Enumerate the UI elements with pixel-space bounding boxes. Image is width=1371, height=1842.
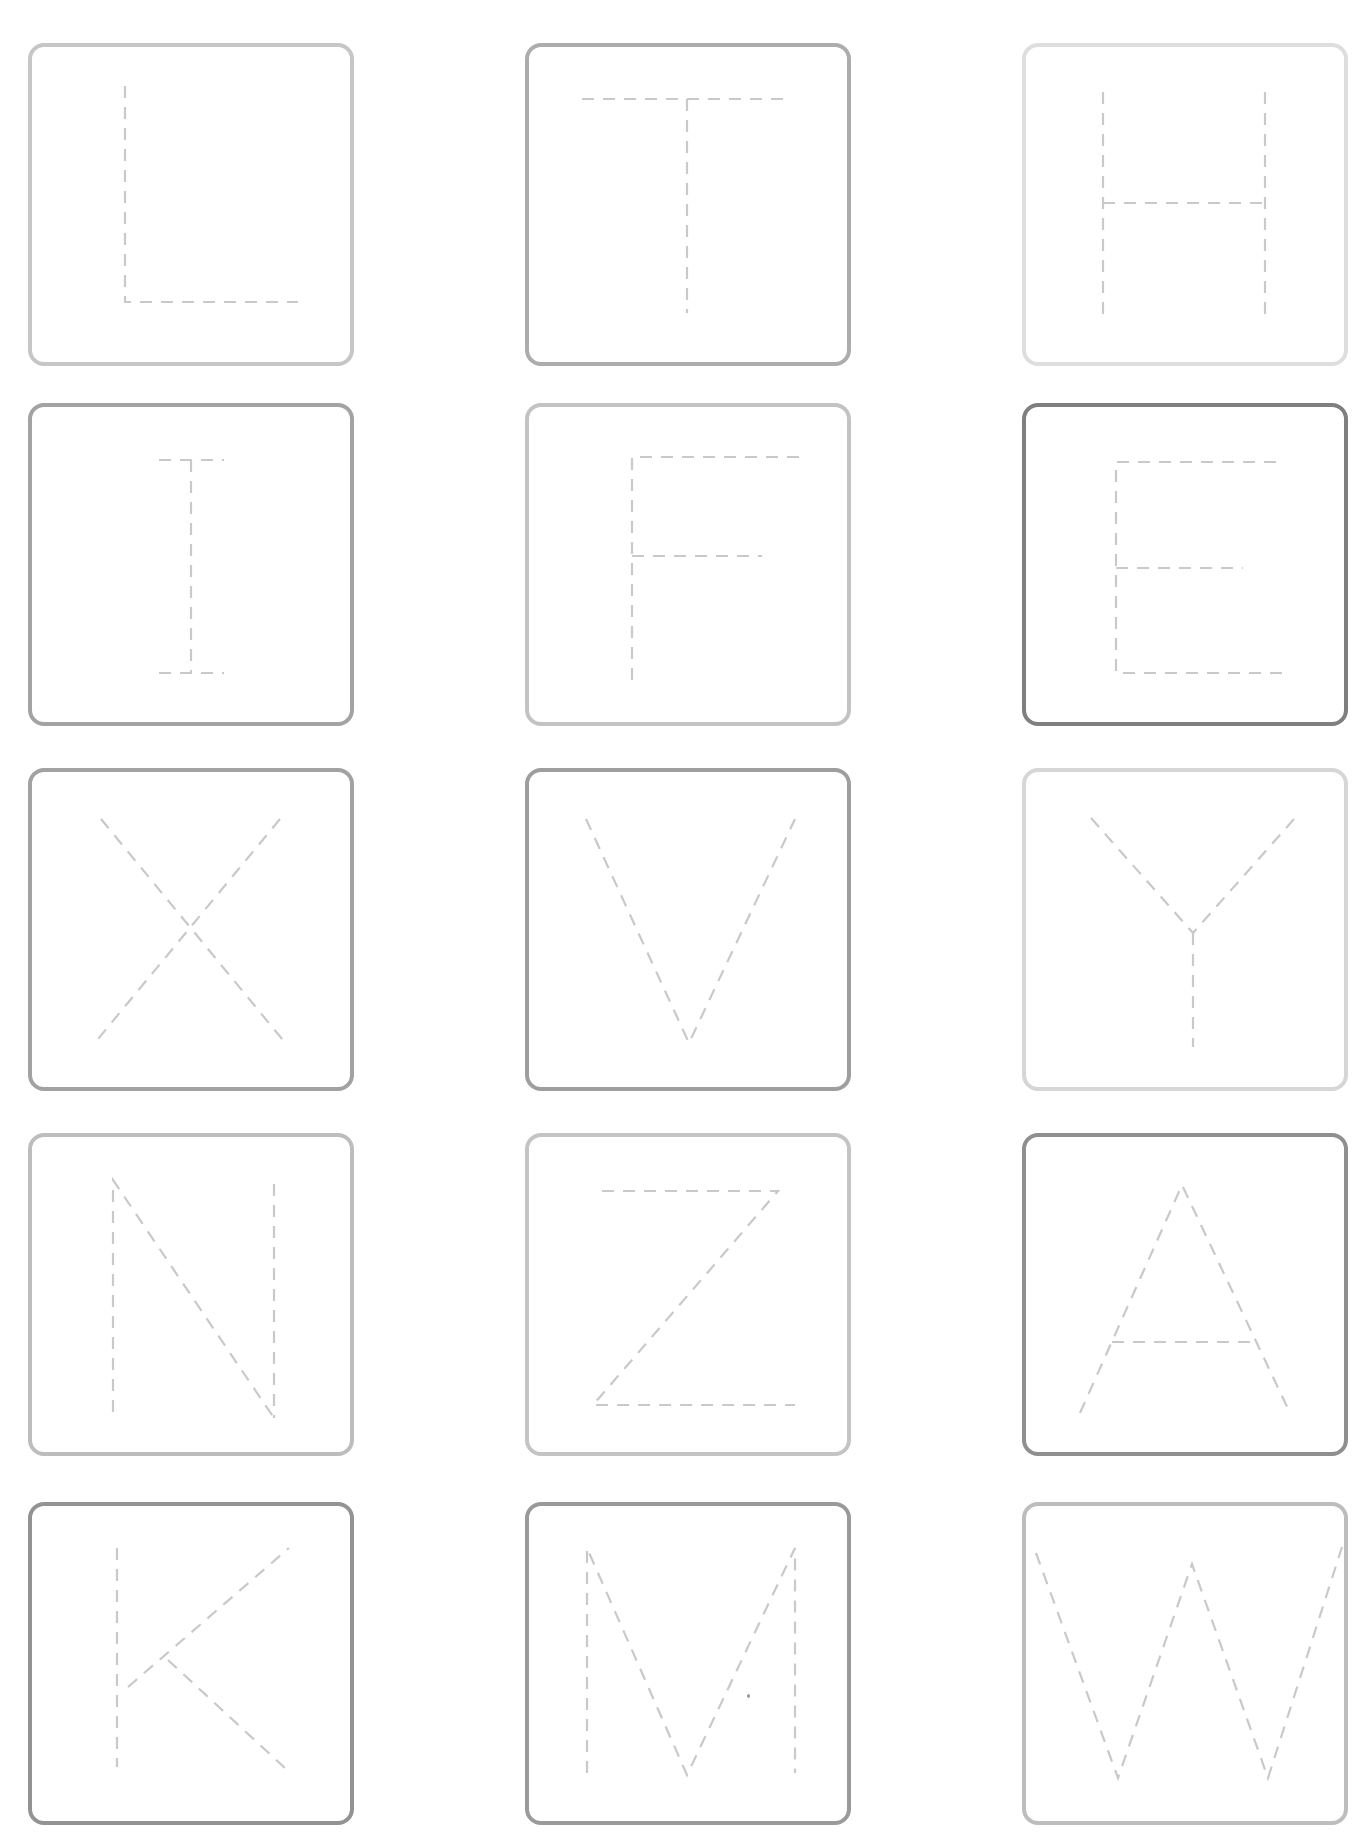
tracing-card-l: L — [28, 43, 354, 366]
trace-stroke — [128, 1548, 289, 1687]
trace-stroke — [93, 819, 280, 1045]
dashed-letter-h-icon — [1022, 43, 1348, 366]
dashed-letter-t-icon — [525, 43, 851, 366]
trace-stroke — [593, 1191, 795, 1405]
dashed-letter-v-icon — [525, 768, 851, 1091]
dashed-letter-k-icon — [28, 1502, 354, 1825]
dashed-letter-y-icon — [1022, 768, 1348, 1091]
dashed-letter-x-icon — [28, 768, 354, 1091]
trace-stroke — [587, 1548, 795, 1775]
letter-tracing-worksheet: LTHIFEXVYNZAKMW — [0, 0, 1371, 1842]
dashed-letter-e-icon — [1022, 403, 1348, 726]
tracing-card-i: I — [28, 403, 354, 726]
dashed-letter-l-icon — [28, 43, 354, 366]
trace-stroke — [632, 457, 799, 680]
dashed-letter-m-icon — [525, 1502, 851, 1825]
trace-stroke — [586, 819, 795, 1043]
dashed-letter-z-icon — [525, 1133, 851, 1456]
trace-stroke — [168, 1660, 286, 1769]
tracing-card-n: N — [28, 1133, 354, 1456]
dashed-letter-f-icon — [525, 403, 851, 726]
tracing-card-m: M — [525, 1502, 851, 1825]
tracing-card-f: F — [525, 403, 851, 726]
tracing-card-z: Z — [525, 1133, 851, 1456]
dashed-letter-w-icon — [1022, 1502, 1348, 1825]
tracing-card-x: X — [28, 768, 354, 1091]
dashed-letter-n-icon — [28, 1133, 354, 1456]
tracing-card-h: H — [1022, 43, 1348, 366]
tracing-card-k: K — [28, 1502, 354, 1825]
tracing-card-t: T — [525, 43, 851, 366]
trace-stroke — [101, 819, 287, 1045]
tracing-card-e: E — [1022, 403, 1348, 726]
tracing-card-v: V — [525, 768, 851, 1091]
dashed-letter-a-icon — [1022, 1133, 1348, 1456]
tracing-card-a: A — [1022, 1133, 1348, 1456]
trace-stroke — [113, 1180, 274, 1418]
stray-dot — [747, 1694, 750, 1698]
trace-stroke — [125, 86, 298, 302]
dashed-letter-i-icon — [28, 403, 354, 726]
trace-stroke — [1036, 1547, 1342, 1778]
tracing-card-w: W — [1022, 1502, 1348, 1825]
tracing-card-y: Y — [1022, 768, 1348, 1091]
trace-stroke — [1080, 1185, 1290, 1413]
trace-stroke — [1091, 818, 1295, 933]
